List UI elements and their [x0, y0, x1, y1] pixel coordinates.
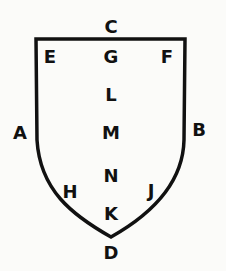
label-l: L — [105, 86, 116, 104]
label-c: C — [104, 18, 117, 36]
label-n: N — [103, 167, 118, 185]
label-k: K — [104, 205, 118, 223]
label-d: D — [104, 244, 119, 262]
label-b: B — [192, 121, 206, 139]
label-m: M — [102, 124, 120, 142]
label-j: J — [148, 182, 155, 200]
label-h: H — [62, 183, 77, 201]
label-f: F — [161, 48, 173, 66]
label-g: G — [104, 48, 119, 66]
label-e: E — [44, 48, 56, 66]
label-a: A — [13, 124, 27, 142]
